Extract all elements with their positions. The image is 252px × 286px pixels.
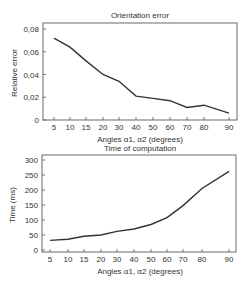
y-tick-label: 300 [25,156,39,165]
orientation-error-chart: Orientation error 00,020,040,060,08 5101… [10,11,237,144]
y-tick-label: 250 [25,171,39,180]
y-tick-label: 0 [35,116,40,125]
x-axis-label: Angles α1, α2 (degrees) [97,267,183,276]
x-tick-label: 90 [225,123,234,132]
chart-title: Orientation error [111,11,170,20]
y-tick-label: 200 [25,186,39,195]
y-axis-label: Relative error [10,49,19,97]
x-tick-label: 5 [52,123,57,132]
x-tick-label: 40 [132,123,141,132]
x-tick-label: 30 [115,123,124,132]
chart-title: Time of computation [104,144,176,153]
y-tick-label: 0 [34,246,39,255]
y-tick-label: 50 [29,231,38,240]
x-axis-ticks: 510152030405060708090 [48,249,234,264]
x-tick-label: 50 [147,255,156,264]
y-tick-label: 0,04 [23,71,39,80]
x-tick-label: 50 [149,123,158,132]
y-tick-label: 0,08 [23,25,39,34]
x-tick-label: 80 [200,123,209,132]
x-tick-label: 60 [163,255,172,264]
x-tick-label: 90 [225,255,234,264]
x-axis-label: Angles α1, α2 (degrees) [97,135,183,144]
x-tick-label: 80 [198,255,207,264]
x-tick-label: 20 [99,123,108,132]
y-tick-label: 0,06 [23,48,39,57]
y-axis-label: Time (ms) [8,187,17,223]
figure: Orientation error 00,020,040,060,08 5101… [0,0,252,286]
x-axis-ticks: 510152030405060708090 [52,117,234,132]
x-tick-label: 40 [130,255,139,264]
x-tick-label: 15 [82,123,91,132]
data-line [54,38,229,113]
x-tick-label: 70 [179,255,188,264]
x-tick-label: 30 [113,255,122,264]
y-tick-label: 150 [25,201,39,210]
x-tick-label: 60 [166,123,175,132]
time-of-computation-chart: Time of computation 050100150200250300 5… [8,144,236,276]
x-tick-label: 10 [64,255,73,264]
x-tick-label: 5 [48,255,53,264]
x-tick-label: 15 [80,255,89,264]
x-tick-label: 10 [66,123,75,132]
x-tick-label: 20 [97,255,106,264]
data-line [50,171,229,240]
x-tick-label: 70 [183,123,192,132]
y-tick-label: 0,02 [23,93,39,102]
plot-frame [43,23,237,120]
y-tick-label: 100 [25,216,39,225]
plot-frame [42,155,236,252]
